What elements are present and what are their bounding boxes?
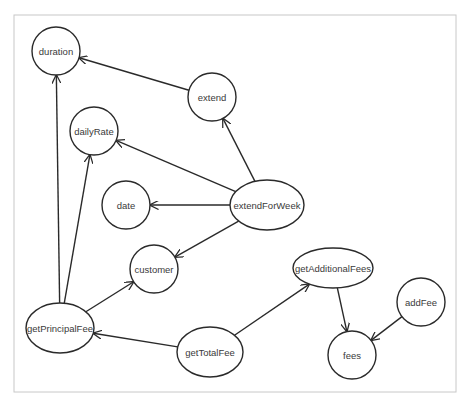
node-customer: customer (130, 245, 178, 293)
node-extendForWeek: extendForWeek (230, 180, 304, 230)
node-label: getPrincipalFee (27, 323, 93, 334)
node-label: fees (343, 350, 361, 361)
node-label: getAdditionalFees (295, 263, 371, 274)
node-addFee: addFee (397, 278, 445, 326)
node-label: duration (39, 46, 73, 57)
node-label: extendForWeek (234, 200, 301, 211)
node-getPrincipalFee: getPrincipalFee (26, 303, 94, 353)
node-extend: extend (188, 73, 236, 121)
node-duration: duration (32, 27, 80, 75)
node-fees: fees (328, 331, 376, 379)
node-label: dailyRate (74, 126, 114, 137)
node-label: getTotalFee (185, 347, 235, 358)
node-date: date (102, 181, 150, 229)
node-label: extend (198, 92, 227, 103)
node-label: addFee (405, 297, 437, 308)
node-label: date (117, 200, 136, 211)
node-label: customer (134, 264, 173, 275)
node-getAdditionalFees: getAdditionalFees (293, 248, 373, 288)
dependency-graph: durationextenddailyRatedateextendForWeek… (0, 0, 469, 402)
node-getTotalFee: getTotalFee (177, 327, 243, 377)
node-dailyRate: dailyRate (70, 107, 118, 155)
